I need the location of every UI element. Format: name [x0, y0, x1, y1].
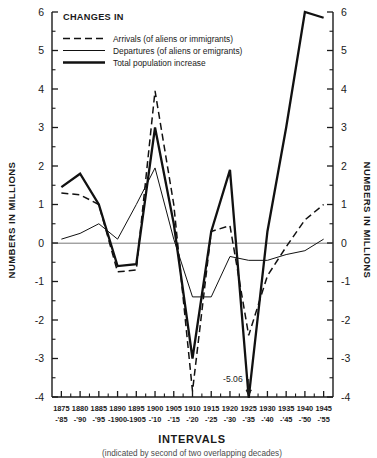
legend-label-total: Total population increase: [113, 58, 206, 68]
x-tick-label-start-year: 1900: [147, 404, 163, 413]
x-tick-label-end-year: -1905: [127, 415, 146, 424]
x-tick-label-end-year: -'45: [280, 415, 292, 424]
x-tick-label-start-year: 1895: [128, 404, 144, 413]
x-tick-label-end-year: -'90: [74, 415, 86, 424]
y-tick-label-left: 5: [38, 44, 44, 56]
y-tick-label-left: -1: [35, 275, 44, 287]
chart-svg: -4-4-3-3-2-2-1-100112233445566 1875-'851…: [0, 0, 377, 458]
x-tick-label-end-year: -'40: [261, 415, 273, 424]
annotation-arrow-head-icon: [246, 390, 251, 396]
x-tick-label-start-year: 1930: [259, 404, 275, 413]
y-tick-label-right: 5: [341, 44, 347, 56]
legend-title: CHANGES IN: [63, 12, 124, 22]
x-tick-label-end-year: -'50: [299, 415, 311, 424]
x-tick-label-end-year: -'55: [317, 415, 329, 424]
x-tick-label-end-year: -'15: [168, 415, 180, 424]
x-axis: 1875-'851880-'901885-'951890-19001895-19…: [53, 391, 332, 424]
x-tick-label-start-year: 1905: [166, 404, 182, 413]
y-tick-label-left: -4: [35, 391, 44, 403]
y-axis-title-right: NUMBERS IN MILLIONS: [362, 162, 373, 279]
y-tick-label-left: -3: [35, 352, 44, 364]
y-tick-label-right: 2: [341, 160, 347, 172]
x-tick-label-start-year: 1885: [91, 404, 107, 413]
data-series-group: [61, 12, 323, 398]
x-tick-label-start-year: 1890: [109, 404, 125, 413]
y-tick-label-left: 0: [38, 237, 44, 249]
x-tick-label-start-year: 1940: [297, 404, 313, 413]
x-axis-subtitle: (indicated by second of two overlapping …: [102, 449, 282, 458]
y-tick-label-left: 2: [38, 160, 44, 172]
x-axis-title: INTERVALS: [158, 433, 226, 445]
legend: CHANGES IN Arrivals (of aliens or immigr…: [63, 12, 243, 68]
y-tick-label-right: 4: [341, 83, 347, 95]
y-tick-label-left: 3: [38, 121, 44, 133]
x-tick-label-start-year: 1880: [72, 404, 88, 413]
y-tick-label-right: -1: [341, 275, 350, 287]
x-tick-label-start-year: 1915: [203, 404, 219, 413]
legend-item-total: Total population increase: [63, 58, 206, 68]
y-tick-label-left: -2: [35, 314, 44, 326]
y-tick-label-left: 6: [38, 6, 44, 18]
x-tick-label-start-year: 1925: [240, 404, 256, 413]
x-tick-label-start-year: 1875: [53, 404, 69, 413]
x-tick-label-end-year: -'35: [242, 415, 254, 424]
y-tick-label-right: 6: [341, 6, 347, 18]
y-tick-label-right: 1: [341, 198, 347, 210]
y-axis-title: NUMBERS IN MILLIONS: [6, 161, 17, 278]
y-tick-label-right: -4: [341, 391, 350, 403]
annotation-value-label: -5.06: [223, 374, 243, 384]
legend-label-departures: Departures (of aliens or emigrants): [113, 46, 243, 56]
y-tick-label-right: 3: [341, 121, 347, 133]
y-tick-label-right: -3: [341, 352, 350, 364]
y-tick-label-left: 1: [38, 198, 44, 210]
x-tick-label-end-year: -1900: [108, 415, 127, 424]
x-tick-label-start-year: 1910: [184, 404, 200, 413]
series-line-departures: [61, 168, 323, 297]
x-tick-label-end-year: -'85: [55, 415, 67, 424]
x-tick-label-end-year: -'20: [186, 415, 198, 424]
x-tick-label-start-year: 1920: [222, 404, 238, 413]
x-tick-label-end-year: -'95: [93, 415, 105, 424]
x-tick-label-start-year: 1945: [315, 404, 331, 413]
series-line-total: [61, 12, 323, 398]
x-tick-label-start-year: 1935: [278, 404, 294, 413]
legend-item-arrivals: Arrivals (of aliens or immigrants): [63, 34, 233, 44]
plot-frame: [52, 12, 333, 397]
legend-item-departures: Departures (of aliens or emigrants): [63, 46, 243, 56]
y-tick-label-right: -2: [341, 314, 350, 326]
x-tick-label-end-year: -'25: [205, 415, 217, 424]
x-tick-label-end-year: -'10: [149, 415, 161, 424]
population-change-line-chart: -4-4-3-3-2-2-1-100112233445566 1875-'851…: [0, 0, 377, 458]
y-tick-label-left: 4: [38, 83, 44, 95]
y-tick-label-right: 0: [341, 237, 347, 249]
legend-label-arrivals: Arrivals (of aliens or immigrants): [113, 34, 233, 44]
x-tick-label-end-year: -'30: [224, 415, 236, 424]
